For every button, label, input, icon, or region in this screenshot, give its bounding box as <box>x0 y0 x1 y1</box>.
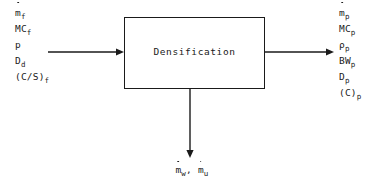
subscript: w <box>181 169 186 178</box>
loss-variable-m-dot-w: mw <box>175 164 186 175</box>
process-diagram: mf MCf p Dd (C/S)f mp MCp ρp BWp Dp (C)p… <box>0 0 384 190</box>
subscript: u <box>204 169 209 178</box>
input-arrow <box>48 48 124 55</box>
m-dot-glyph: m <box>198 164 204 175</box>
output-arrow <box>265 48 334 55</box>
loss-variable-m-dot-u: mu <box>198 164 209 175</box>
loss-variables-label: mw, mu <box>0 164 384 175</box>
loss-arrow <box>186 89 193 158</box>
loss-separator: , <box>186 164 192 175</box>
arrow-layer <box>0 0 384 190</box>
